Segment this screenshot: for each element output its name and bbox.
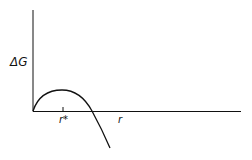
critical-radius-label: r* xyxy=(59,115,68,125)
delta-g-curve xyxy=(33,90,110,148)
x-axis-label: r xyxy=(118,115,122,125)
y-axis-label: ΔG xyxy=(10,56,28,68)
diagram-canvas xyxy=(0,0,252,160)
